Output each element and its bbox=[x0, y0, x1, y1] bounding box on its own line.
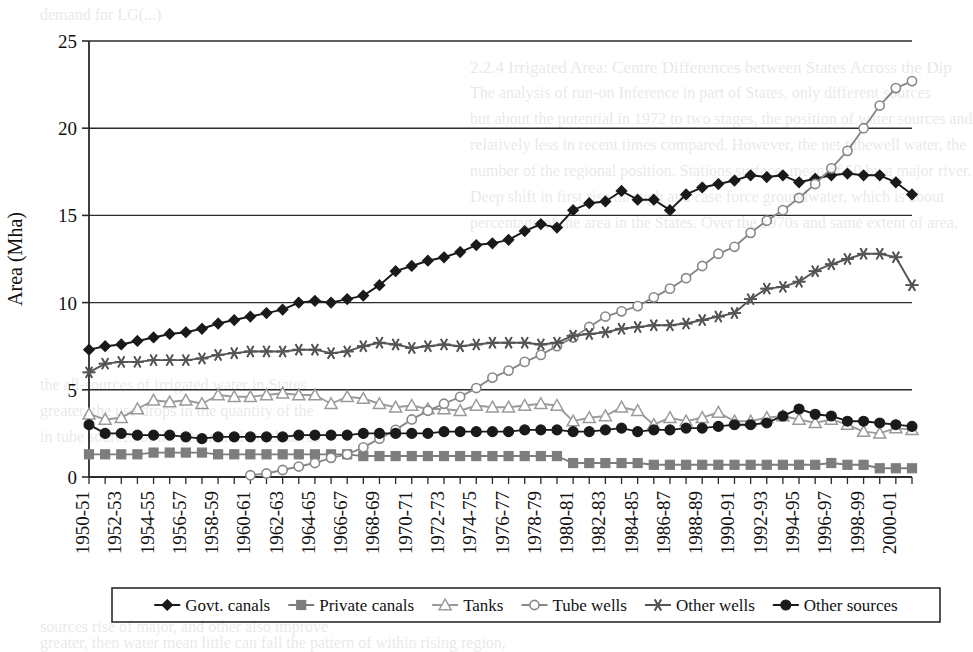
x-tick-label: 1998-99 bbox=[847, 491, 868, 554]
data-point-marker bbox=[713, 421, 723, 431]
data-point-marker bbox=[891, 420, 901, 430]
data-point-marker bbox=[389, 339, 402, 350]
x-tick-label: 1954-55 bbox=[137, 491, 158, 554]
data-point-marker bbox=[858, 426, 870, 437]
data-point-marker bbox=[778, 170, 788, 180]
data-point-marker bbox=[277, 304, 287, 314]
data-point-marker bbox=[374, 428, 384, 438]
data-point-marker bbox=[873, 248, 886, 259]
data-point-marker bbox=[278, 465, 287, 474]
data-point-marker bbox=[180, 394, 192, 405]
series-other-wells bbox=[83, 248, 919, 378]
data-point-marker bbox=[827, 164, 836, 173]
data-point-marker bbox=[617, 307, 626, 316]
data-point-marker bbox=[520, 226, 530, 236]
data-point-marker bbox=[842, 416, 852, 426]
x-axis-labels: 1950-511952-531954-551956-571958-591960-… bbox=[72, 491, 900, 554]
data-point-marker bbox=[454, 341, 467, 352]
gridlines bbox=[89, 41, 912, 390]
data-point-marker bbox=[745, 170, 755, 180]
data-point-marker bbox=[518, 337, 531, 348]
data-point-marker bbox=[310, 430, 320, 440]
data-point-marker bbox=[438, 339, 451, 350]
data-point-marker bbox=[165, 430, 175, 440]
data-point-marker bbox=[713, 179, 723, 189]
data-point-marker bbox=[778, 460, 787, 469]
x-tick-label: 1976-77 bbox=[492, 491, 513, 554]
data-point-marker bbox=[116, 428, 126, 438]
data-point-marker bbox=[132, 430, 142, 440]
data-point-marker bbox=[197, 324, 207, 334]
data-point-marker bbox=[552, 425, 562, 435]
x-tick-label: 1968-69 bbox=[362, 491, 383, 554]
data-point-marker bbox=[115, 412, 127, 423]
x-tick-label: 1988-89 bbox=[685, 491, 706, 554]
series-private-canals bbox=[85, 448, 917, 473]
data-point-marker bbox=[213, 432, 223, 442]
data-point-marker bbox=[310, 296, 320, 306]
data-point-marker bbox=[762, 172, 772, 182]
data-point-marker bbox=[682, 460, 691, 469]
data-point-marker bbox=[875, 101, 884, 110]
x-tick-label: 1960-61 bbox=[233, 491, 254, 554]
data-point-marker bbox=[520, 452, 529, 461]
data-point-marker bbox=[179, 355, 192, 366]
data-point-marker bbox=[875, 418, 885, 428]
x-tick-label: 1972-73 bbox=[427, 491, 448, 554]
data-point-marker bbox=[115, 356, 128, 367]
x-tick-label: 1958-59 bbox=[201, 491, 222, 554]
data-point-marker bbox=[229, 315, 239, 325]
data-point-marker bbox=[631, 321, 644, 332]
data-point-marker bbox=[133, 450, 142, 459]
data-point-marker bbox=[472, 383, 481, 392]
data-point-marker bbox=[843, 460, 852, 469]
data-point-marker bbox=[84, 344, 94, 354]
data-point-marker bbox=[487, 427, 497, 437]
data-point-marker bbox=[456, 392, 465, 401]
data-point-marker bbox=[827, 459, 836, 468]
data-point-marker bbox=[907, 421, 917, 431]
y-tick-label: 5 bbox=[68, 380, 78, 401]
data-point-marker bbox=[197, 448, 206, 457]
data-point-marker bbox=[680, 318, 693, 329]
data-point-marker bbox=[762, 418, 772, 428]
data-point-marker bbox=[891, 83, 900, 92]
data-point-marker bbox=[649, 293, 658, 302]
data-point-marker bbox=[163, 355, 176, 366]
y-tick-label: 10 bbox=[58, 293, 77, 314]
data-point-marker bbox=[859, 124, 868, 133]
data-point-marker bbox=[697, 423, 707, 433]
data-point-marker bbox=[632, 195, 642, 205]
data-point-marker bbox=[536, 350, 545, 359]
data-point-marker bbox=[375, 452, 384, 461]
data-point-marker bbox=[504, 452, 513, 461]
x-tick-label: 1984-85 bbox=[621, 491, 642, 554]
data-point-marker bbox=[488, 452, 497, 461]
axes bbox=[89, 41, 912, 477]
data-point-marker bbox=[297, 601, 306, 610]
data-point-marker bbox=[278, 450, 287, 459]
data-point-marker bbox=[117, 450, 126, 459]
data-point-marker bbox=[341, 346, 354, 357]
data-point-marker bbox=[502, 337, 515, 348]
data-point-marker bbox=[325, 398, 337, 409]
data-point-marker bbox=[746, 420, 756, 430]
data-point-marker bbox=[260, 346, 273, 357]
data-point-marker bbox=[326, 453, 335, 462]
data-point-marker bbox=[246, 471, 255, 480]
data-point-marker bbox=[615, 323, 628, 334]
data-point-marker bbox=[697, 182, 707, 192]
data-point-marker bbox=[599, 327, 612, 338]
x-tick-label: 1990-91 bbox=[717, 491, 738, 554]
data-point-marker bbox=[228, 348, 241, 359]
data-point-marker bbox=[358, 290, 368, 300]
data-point-marker bbox=[616, 186, 626, 196]
data-point-marker bbox=[536, 425, 546, 435]
data-point-marker bbox=[165, 448, 174, 457]
data-point-marker bbox=[100, 341, 110, 351]
data-point-marker bbox=[649, 460, 658, 469]
data-point-marker bbox=[536, 452, 545, 461]
x-tick-label: 1970-71 bbox=[395, 491, 416, 554]
data-point-marker bbox=[665, 425, 675, 435]
data-point-marker bbox=[343, 450, 352, 459]
